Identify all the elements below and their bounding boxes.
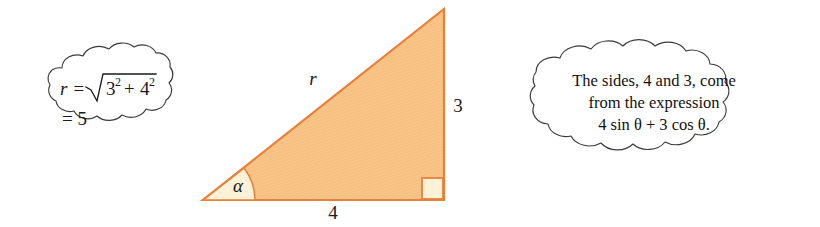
hypotenuse-label: r (309, 68, 317, 89)
right-cloud-line-2: from the expression (588, 93, 719, 112)
angle-arc-marker (203, 168, 255, 200)
trigonometry-figure: r = 3 2 + 4 2 = 5 r 3 4 α (0, 0, 820, 227)
left-cloud-lead: r = (60, 78, 85, 99)
right-cloud-line-3: 4 sin θ + 3 cos θ. (598, 115, 710, 134)
right-cloud-line-1: The sides, 4 and 3, come (572, 71, 736, 90)
horizontal-side-label: 4 (328, 202, 338, 223)
angle-label: α (233, 175, 244, 196)
vertical-side-label: 3 (453, 95, 463, 116)
radicand-second-exponent: 2 (149, 75, 155, 89)
right-angle-marker (422, 178, 443, 199)
triangle-group: r 3 4 α (203, 9, 463, 223)
right-cloud-group: The sides, 4 and 3, come from the expres… (530, 40, 736, 150)
radicand-first-exponent: 2 (115, 75, 121, 89)
left-cloud-line-1: r = 3 2 + 4 2 (60, 74, 156, 101)
figure-canvas: r = 3 2 + 4 2 = 5 r 3 4 α (0, 0, 820, 227)
radicand-operator: + (124, 78, 135, 99)
left-cloud-group: r = 3 2 + 4 2 = 5 (48, 43, 173, 129)
left-cloud-line-2: = 5 (62, 108, 87, 129)
